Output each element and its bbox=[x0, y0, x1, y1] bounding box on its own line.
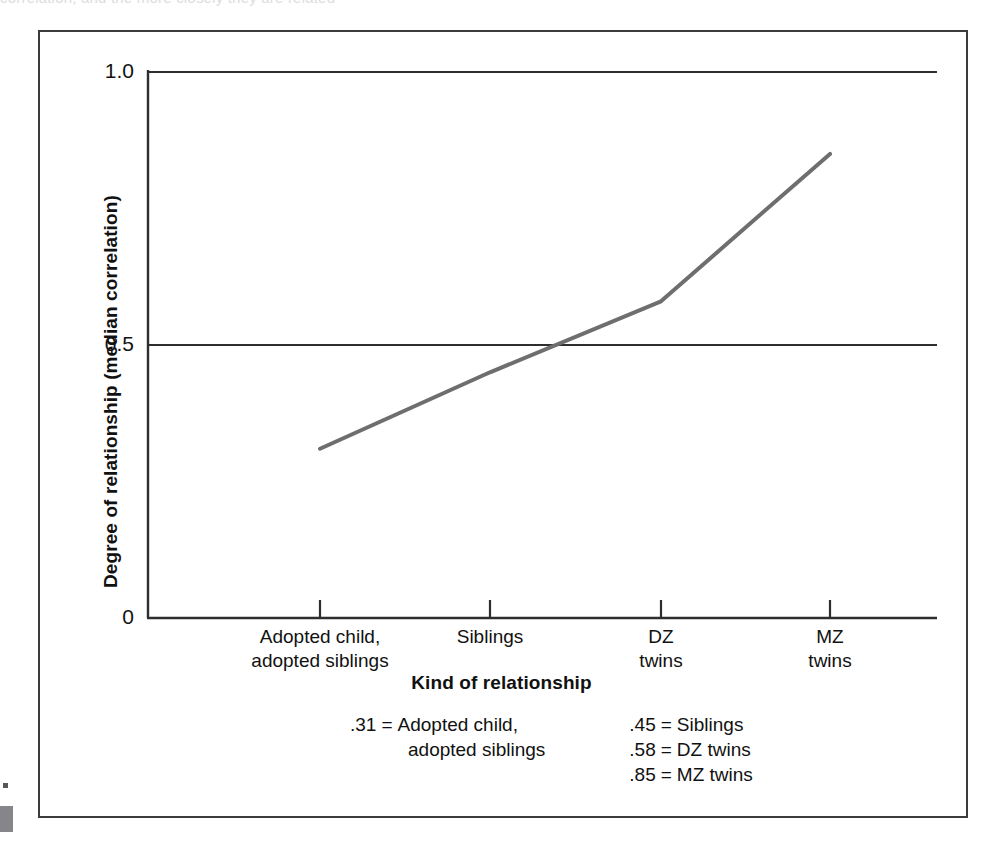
x-category-label-dz-twins-line2: twins bbox=[639, 649, 682, 673]
x-category-label-mz-twins-line1: MZ bbox=[816, 626, 843, 647]
legend-equals-mz-twins: = bbox=[656, 764, 677, 785]
legend-label-dz-twins: DZ twins bbox=[677, 739, 751, 760]
legend-value-dz-twins: .58 bbox=[629, 739, 655, 760]
x-category-label-adopted-line1: Adopted child, bbox=[260, 626, 380, 647]
legend-equals-dz-twins: = bbox=[656, 739, 677, 760]
legend-label-mz-twins: MZ twins bbox=[677, 764, 753, 785]
legend-equals-siblings: = bbox=[656, 714, 677, 735]
x-category-label-siblings: Siblings bbox=[457, 625, 524, 649]
legend-column-left: .31=Adopted child, adopted siblings bbox=[350, 712, 545, 762]
legend-value-mz-twins: .85 bbox=[629, 764, 655, 785]
legend-label-adopted-continuation: adopted siblings bbox=[350, 737, 545, 762]
y-tick-label-0: 0 bbox=[64, 605, 134, 629]
legend-item-mz-twins: .85=MZ twins bbox=[629, 762, 753, 787]
legend-value-adopted: .31 bbox=[350, 714, 376, 735]
y-tick-label-0-5: 0.5 bbox=[64, 332, 134, 356]
legend-column-right: .45=Siblings .58=DZ twins .85=MZ twins bbox=[629, 712, 753, 787]
legend-label-adopted: Adopted child, bbox=[398, 714, 518, 735]
x-axis-title: Kind of relationship bbox=[0, 672, 1003, 694]
legend-item-siblings: .45=Siblings bbox=[629, 712, 753, 737]
legend-item-adopted: .31=Adopted child, bbox=[350, 712, 545, 737]
correlation-series-line bbox=[320, 154, 830, 449]
legend-label-siblings: Siblings bbox=[677, 714, 744, 735]
legend-equals-adopted: = bbox=[376, 714, 397, 735]
x-category-label-siblings-line1: Siblings bbox=[457, 626, 524, 647]
y-tick-label-1-0: 1.0 bbox=[64, 59, 134, 83]
chart-legend: .31=Adopted child, adopted siblings .45=… bbox=[350, 712, 753, 787]
legend-item-dz-twins: .58=DZ twins bbox=[629, 737, 753, 762]
legend-value-siblings: .45 bbox=[629, 714, 655, 735]
x-category-label-adopted-line2: adopted siblings bbox=[251, 649, 388, 673]
x-category-label-dz-twins: DZ twins bbox=[639, 625, 682, 673]
x-category-label-mz-twins-line2: twins bbox=[808, 649, 851, 673]
x-category-label-dz-twins-line1: DZ bbox=[648, 626, 673, 647]
y-axis-title: Degree of relationship (median correlati… bbox=[100, 195, 122, 588]
x-category-label-adopted: Adopted child, adopted siblings bbox=[251, 625, 388, 673]
x-category-label-mz-twins: MZ twins bbox=[808, 625, 851, 673]
